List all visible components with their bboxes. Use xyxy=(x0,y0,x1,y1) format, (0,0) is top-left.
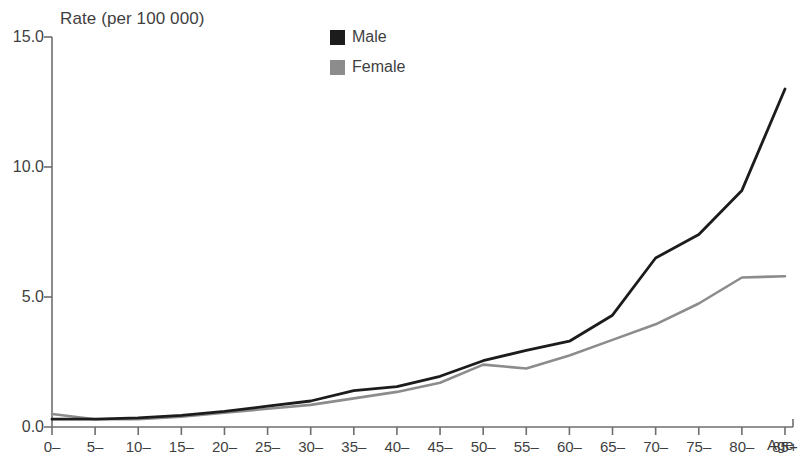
plot-area xyxy=(0,0,805,461)
x-tick-label-3: 15– xyxy=(159,438,203,455)
x-tick-label-13: 65– xyxy=(591,438,635,455)
x-tick-label-5: 25– xyxy=(246,438,290,455)
x-tick-label-0: 0– xyxy=(30,438,74,455)
series-line-male xyxy=(52,89,785,419)
x-tick-label-16: 80– xyxy=(720,438,764,455)
axis-lines xyxy=(44,37,793,427)
x-tick-label-9: 45– xyxy=(418,438,462,455)
x-axis-ticks xyxy=(52,427,785,435)
x-tick-label-8: 40– xyxy=(375,438,419,455)
x-tick-label-12: 60– xyxy=(547,438,591,455)
x-tick-label-2: 10– xyxy=(116,438,160,455)
x-tick-label-4: 20– xyxy=(202,438,246,455)
x-tick-label-1: 5– xyxy=(73,438,117,455)
x-tick-label-7: 35– xyxy=(332,438,376,455)
x-tick-label-10: 50– xyxy=(461,438,505,455)
x-tick-label-14: 70– xyxy=(634,438,678,455)
line-chart: Rate (per 100 000) Male Female 15.0 10.0… xyxy=(0,0,805,461)
x-tick-label-15: 75– xyxy=(677,438,721,455)
x-tick-label-11: 55– xyxy=(504,438,548,455)
x-axis-title: Age xyxy=(767,436,794,453)
x-tick-label-6: 30– xyxy=(289,438,333,455)
series-line-female xyxy=(52,276,785,419)
